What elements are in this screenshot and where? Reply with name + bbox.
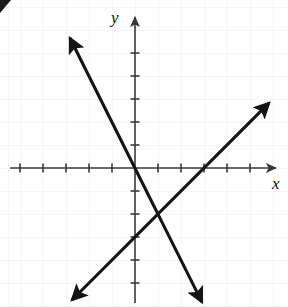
coordinate-plane-plot xyxy=(0,0,288,307)
x-axis-label: x xyxy=(272,175,280,192)
x-axis-group xyxy=(10,164,276,173)
ascending-line-graph xyxy=(72,103,269,300)
y-axis-label: y xyxy=(111,9,119,26)
graph-figure: y x xyxy=(0,0,288,307)
